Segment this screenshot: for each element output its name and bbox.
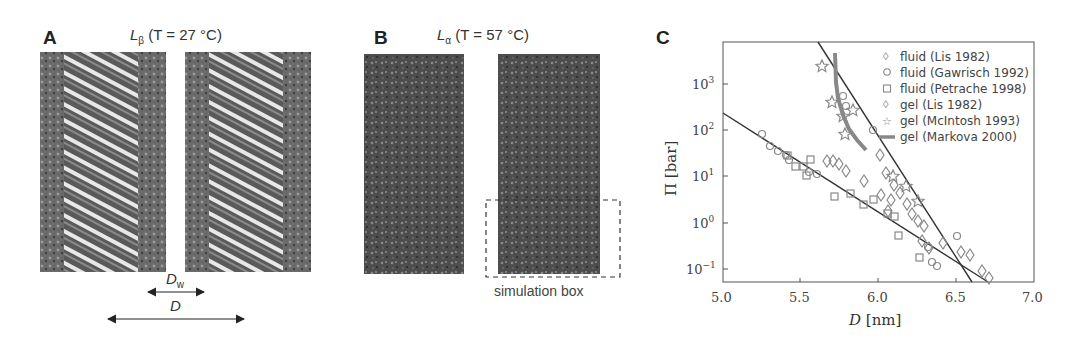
temperature: (T = 57 °C) [455,26,529,43]
svg-text:7.0: 7.0 [1022,290,1043,305]
panel-b-title: Lα (T = 57 °C) [437,26,529,46]
svg-text:◊: ◊ [883,50,889,62]
lis-points [823,149,993,284]
svg-text:103: 103 [692,75,715,92]
panel-c-label: C [656,27,670,49]
svg-text:100: 100 [692,214,715,231]
dw-label: Dw [166,270,184,290]
petrache-points [784,152,923,261]
y-axis-label: Π [bar] [662,141,680,196]
pressure-plot: 103 102 101 100 10−1 5.0 5.5 6.0 6.5 7.0… [662,42,1043,329]
svg-text:5.0: 5.0 [711,290,732,305]
x-axis-label: D [nm] [848,311,901,329]
gel-membrane-left [40,52,166,272]
markova-curve [835,53,866,150]
svg-text:gel (McIntosh 1993): gel (McIntosh 1993) [900,114,1020,128]
svg-text:102: 102 [692,121,714,138]
svg-text:◊: ◊ [883,98,889,110]
fluid-membrane-left [364,54,464,274]
svg-text:101: 101 [692,167,714,184]
dw-sub: w [177,279,184,290]
svg-text:fluid (Lis 1982): fluid (Lis 1982) [900,50,990,64]
chart-legend: ◊ fluid (Lis 1982) fluid (Gawrisch 1992)… [879,50,1029,144]
simulation-box-label: simulation box [494,283,584,299]
fluid-membrane-right [498,54,600,274]
svg-text:5.5: 5.5 [789,290,810,305]
svg-text:6.0: 6.0 [867,290,888,305]
svg-text:6.5: 6.5 [945,290,966,305]
dw-main: D [166,270,177,287]
svg-text:fluid (Petrache 1998): fluid (Petrache 1998) [900,82,1026,96]
panel-b-label: B [374,27,388,49]
svg-text:fluid (Gawrisch 1992): fluid (Gawrisch 1992) [900,66,1029,80]
svg-text:☆: ☆ [882,115,892,127]
gel-membrane-right [185,52,311,272]
svg-text:10−1: 10−1 [686,260,716,277]
svg-text:gel (Markova 2000): gel (Markova 2000) [900,130,1017,144]
svg-text:gel (Lis 1982): gel (Lis 1982) [900,98,982,112]
d-label: D [170,297,181,314]
phase-subscript: α [445,35,451,46]
